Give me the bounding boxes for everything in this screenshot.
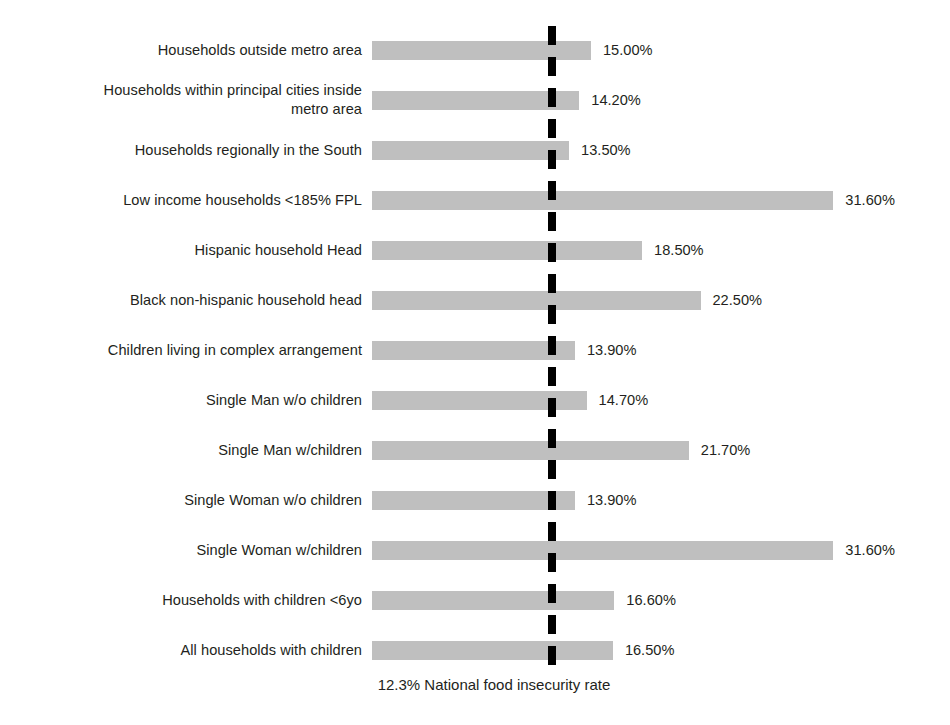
bar-value-label: 13.90% (587, 489, 637, 511)
bar-value-label: 21.70% (701, 439, 751, 461)
bar-value-label: 31.60% (845, 539, 895, 561)
bar (372, 641, 613, 660)
bar-value-label: 14.20% (591, 89, 641, 111)
bar-row: Low income households <185% FPL31.60% (0, 176, 950, 226)
plot-area: Households outside metro area15.00%House… (0, 0, 950, 725)
national-rate-reference-line (548, 26, 556, 666)
bar (372, 241, 642, 260)
bar-value-label: 16.60% (626, 589, 676, 611)
bar-row: Hispanic household Head18.50% (0, 226, 950, 276)
bar-value-label: 16.50% (625, 639, 675, 661)
bar-value-label: 15.00% (603, 39, 653, 61)
bar-row: Single Man w/o children14.70% (0, 376, 950, 426)
bar (372, 491, 575, 510)
category-label: All households with children (0, 641, 362, 660)
bar (372, 341, 575, 360)
bar (372, 291, 701, 310)
category-label: Single Man w/children (0, 441, 362, 460)
category-label: Single Man w/o children (0, 391, 362, 410)
bar-row: Households with children <6yo16.60% (0, 576, 950, 626)
bar-row: Single Woman w/o children13.90% (0, 476, 950, 526)
reference-line-caption: 12.3% National food insecurity rate (0, 676, 950, 693)
bar-row: Households outside metro area15.00% (0, 26, 950, 76)
category-label: Children living in complex arrangement (0, 341, 362, 360)
category-label: Hispanic household Head (0, 241, 362, 260)
category-label: Black non-hispanic household head (0, 291, 362, 310)
bar (372, 41, 591, 60)
bar-row: Households within principal cities insid… (0, 76, 950, 126)
category-label: Households with children <6yo (0, 591, 362, 610)
food-insecurity-bar-chart: Households outside metro area15.00%House… (0, 0, 950, 725)
category-label: Households outside metro area (0, 41, 362, 60)
bar-row: Households regionally in the South13.50% (0, 126, 950, 176)
bar-value-label: 18.50% (654, 239, 704, 261)
category-label: Single Woman w/o children (0, 491, 362, 510)
bar (372, 441, 689, 460)
bar-value-label: 13.90% (587, 339, 637, 361)
bar-value-label: 22.50% (713, 289, 763, 311)
category-label: Low income households <185% FPL (0, 191, 362, 210)
bar-value-label: 31.60% (845, 189, 895, 211)
bar-value-label: 14.70% (599, 389, 649, 411)
category-label: Households within principal cities insid… (0, 81, 362, 119)
bar-value-label: 13.50% (581, 139, 631, 161)
category-label: Single Woman w/children (0, 541, 362, 560)
category-label: Households regionally in the South (0, 141, 362, 160)
bar-row: Children living in complex arrangement13… (0, 326, 950, 376)
bar-row: Single Woman w/children31.60% (0, 526, 950, 576)
bar-row: All households with children16.50% (0, 626, 950, 676)
bar (372, 191, 833, 210)
bar (372, 591, 614, 610)
bar-row: Black non-hispanic household head22.50% (0, 276, 950, 326)
bar-row: Single Man w/children21.70% (0, 426, 950, 476)
bar (372, 141, 569, 160)
bar (372, 541, 833, 560)
